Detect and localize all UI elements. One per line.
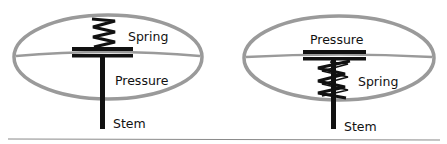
- left-pressure-plate: [72, 47, 133, 51]
- right-pressure-label: Pressure: [310, 32, 364, 47]
- right-stem-label: Stem: [344, 119, 377, 134]
- left-stem: [100, 54, 105, 129]
- right-stem: [331, 57, 336, 129]
- right-spring-label: Spring: [358, 74, 398, 89]
- left-spring-icon: [92, 19, 115, 47]
- left-spring-label: Spring: [128, 29, 168, 44]
- left-diagram: Spring Pressure Stem: [14, 15, 202, 131]
- left-pressure-label: Pressure: [115, 73, 169, 88]
- divider-line: [8, 139, 440, 140]
- right-diaphragm-line: [246, 55, 432, 58]
- right-diagram: Pressure Spring Stem: [244, 16, 434, 134]
- diagram-canvas: Spring Pressure Stem Pressure Spring Ste…: [0, 0, 447, 144]
- left-stem-label: Stem: [113, 116, 146, 131]
- right-pressure-plate: [303, 50, 366, 54]
